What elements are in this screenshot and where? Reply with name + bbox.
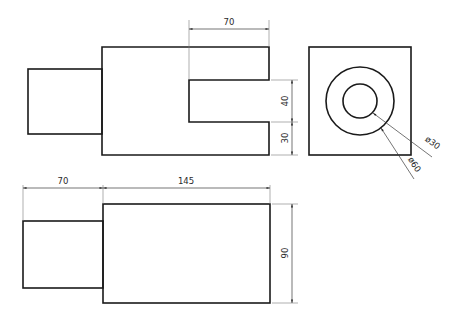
top-view-boss	[28, 69, 102, 134]
dimension-body-length: 145	[178, 176, 194, 186]
leader-inner-diameter	[373, 113, 432, 157]
technical-drawing: 70 40 30 ø30 ø60 70 145 90	[0, 0, 460, 316]
inner-circle	[343, 84, 377, 118]
side-view: ø30 ø60	[309, 47, 442, 179]
dimension-boss-length: 70	[58, 176, 69, 186]
dimension-height: 90	[280, 248, 290, 259]
dimension-slot-width: 40	[280, 96, 290, 107]
dimension-slot-length: 70	[224, 17, 235, 27]
front-view: 70 145 90	[23, 176, 298, 303]
front-view-body	[103, 204, 270, 303]
outer-circle	[326, 67, 394, 135]
top-view-body-with-slot	[102, 47, 269, 155]
side-view-outline	[309, 47, 411, 155]
dimension-inner-diameter: ø30	[423, 134, 442, 152]
top-view: 70 40 30	[28, 17, 298, 155]
leader-outer-diameter	[381, 128, 414, 179]
front-view-boss	[23, 221, 103, 288]
dimension-bottom-wall: 30	[280, 133, 290, 144]
